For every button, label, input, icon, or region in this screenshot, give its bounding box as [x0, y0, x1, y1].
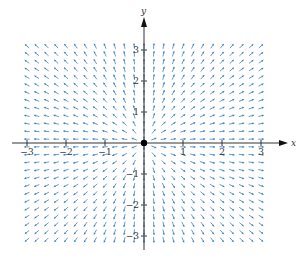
arrowhead-icon	[102, 138, 104, 140]
arrowhead-icon	[44, 146, 46, 148]
arrowhead-icon	[252, 130, 254, 132]
arrowhead-icon	[223, 138, 225, 140]
arrowhead-icon	[44, 130, 46, 132]
arrowhead-icon	[34, 146, 36, 148]
y-axis-arrowhead-icon	[141, 17, 147, 27]
arrowhead-icon	[213, 146, 215, 148]
arrowhead-icon	[233, 138, 235, 140]
x-tick-label: −1	[98, 147, 111, 157]
arrowhead-icon	[34, 138, 36, 140]
x-tick-label: −3	[20, 147, 34, 157]
arrowhead-icon	[34, 130, 36, 132]
arrowhead-icon	[83, 138, 85, 140]
arrowhead-icon	[73, 138, 75, 140]
x-tick-label: 3	[258, 147, 264, 157]
arrowhead-icon	[153, 225, 155, 227]
arrowhead-icon	[153, 59, 155, 61]
arrowhead-icon	[83, 146, 85, 148]
arrowhead-icon	[73, 146, 75, 148]
arrowhead-icon	[54, 138, 56, 140]
x-tick-label: 2	[219, 147, 225, 157]
arrowhead-icon	[184, 138, 186, 140]
arrowhead-icon	[242, 154, 244, 156]
arrowhead-icon	[93, 138, 95, 140]
y-tick-label: 3	[133, 45, 139, 55]
y-tick-label: −2	[126, 200, 139, 210]
vector-field-plot: x y −3−2−1123 −3−2−1123	[0, 0, 308, 262]
arrowhead-icon	[194, 146, 196, 148]
arrowhead-icon	[213, 138, 215, 140]
arrowhead-icon	[203, 138, 205, 140]
arrowhead-icon	[133, 59, 135, 61]
y-tick-label: 1	[133, 107, 139, 117]
arrowhead-icon	[252, 138, 254, 140]
arrowhead-icon	[63, 138, 65, 140]
arrowhead-icon	[93, 146, 95, 148]
y-tick-label: −3	[126, 231, 140, 241]
arrowhead-icon	[44, 154, 46, 156]
x-tick-label: 1	[180, 147, 186, 157]
arrowhead-icon	[153, 51, 155, 53]
x-tick-label: −2	[59, 147, 72, 157]
arrowhead-icon	[153, 43, 155, 45]
origin-point	[141, 140, 147, 146]
arrowhead-icon	[262, 130, 264, 132]
arrowhead-icon	[242, 130, 244, 132]
x-axis-arrowhead-icon	[279, 140, 288, 146]
y-tick-label: 2	[133, 76, 139, 86]
arrowhead-icon	[44, 138, 46, 140]
arrowhead-icon	[242, 138, 244, 140]
arrowhead-icon	[242, 146, 244, 148]
arrowhead-icon	[262, 138, 264, 140]
y-axis-label: y	[140, 6, 147, 16]
arrowhead-icon	[34, 154, 36, 156]
y-axis: y	[140, 6, 147, 250]
y-tick-label: −1	[126, 169, 139, 179]
x-axis-label: x	[291, 138, 296, 148]
arrowhead-icon	[24, 130, 26, 132]
arrowhead-icon	[133, 225, 135, 227]
arrowhead-icon	[233, 146, 235, 148]
arrowhead-icon	[153, 241, 155, 243]
arrowhead-icon	[24, 138, 26, 140]
arrowhead-icon	[252, 146, 254, 148]
arrowhead-icon	[153, 233, 155, 235]
arrowhead-icon	[252, 154, 254, 156]
arrowhead-icon	[203, 146, 205, 148]
arrowhead-icon	[194, 138, 196, 140]
arrowhead-icon	[54, 146, 56, 148]
